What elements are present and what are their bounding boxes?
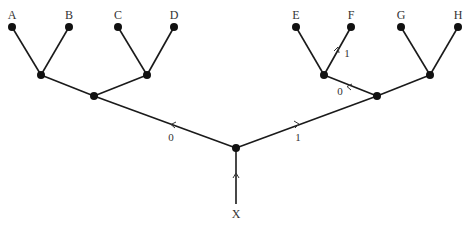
leaf-e (292, 23, 300, 31)
leaf-label-f: F (348, 8, 355, 22)
leaf-label-h: H (454, 8, 463, 22)
leaf-label-c: C (114, 8, 122, 22)
edge-root-left (94, 96, 236, 148)
node-right (373, 92, 381, 100)
edge-root-right (236, 96, 377, 148)
leaf-label-d: D (170, 8, 179, 22)
leaf-c (114, 23, 122, 31)
edge-h (430, 27, 458, 75)
edge-b (41, 27, 69, 75)
node-ef (320, 71, 328, 79)
leaf-label-a: A (8, 8, 17, 22)
leaf-labels: A B C D E F G H (8, 8, 463, 22)
leaf-f (347, 23, 355, 31)
leaf-h (454, 23, 462, 31)
binary-tree-diagram: A B C D E F G H 0 1 0 1 X (0, 0, 475, 225)
edge-label-root-right: 1 (295, 131, 301, 143)
leaf-label-g: G (397, 8, 406, 22)
edge-g (401, 27, 430, 75)
leaf-label-e: E (292, 8, 299, 22)
node-left (90, 92, 98, 100)
tree-nodes (8, 23, 462, 152)
node-ab (37, 71, 45, 79)
leaf-b (65, 23, 73, 31)
leaf-label-b: B (65, 8, 73, 22)
leaf-d (170, 23, 178, 31)
edge-left-ab (41, 75, 94, 96)
edge-left-cd (94, 75, 147, 96)
node-root (232, 144, 240, 152)
edge-label-right-ef: 0 (337, 85, 343, 97)
edge-e (296, 27, 324, 75)
node-gh (426, 71, 434, 79)
node-cd (143, 71, 151, 79)
edge-right-ef (324, 75, 377, 96)
direction-arrows (171, 47, 352, 178)
edge-a (12, 27, 41, 75)
edge-label-ef-f: 1 (344, 47, 350, 59)
leaf-g (397, 23, 405, 31)
edge-c (118, 27, 147, 75)
edge-right-gh (377, 75, 430, 96)
edge-labels: 0 1 0 1 (168, 47, 350, 143)
edge-d (147, 27, 174, 75)
edge-label-root-left: 0 (168, 131, 174, 143)
tree-edges (12, 27, 458, 204)
root-label: X (232, 207, 241, 221)
leaf-a (8, 23, 16, 31)
